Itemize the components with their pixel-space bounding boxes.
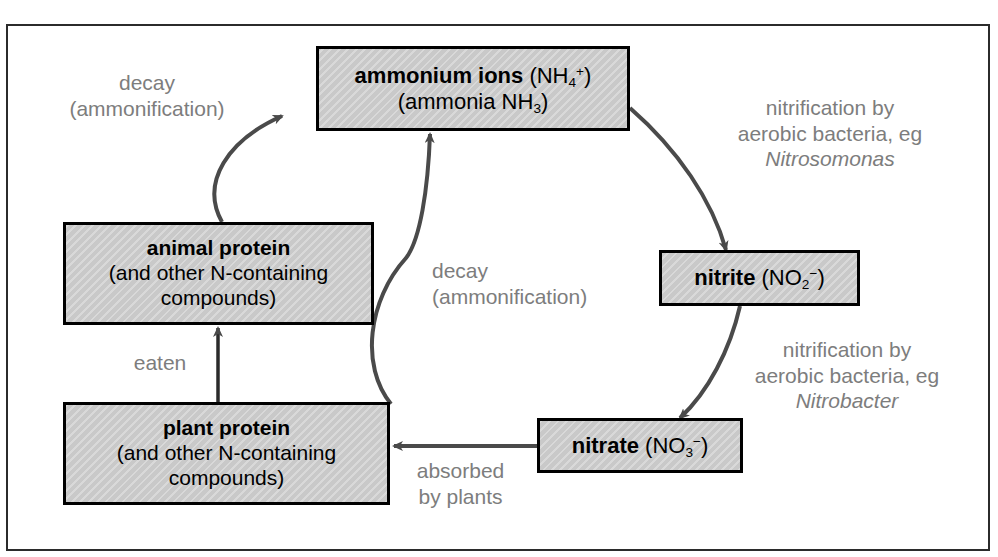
node-plant-protein: plant protein (and other N-containing co… <box>63 402 390 505</box>
node-plant-line3: compounds) <box>169 466 285 491</box>
node-animal-line3: compounds) <box>161 286 277 311</box>
node-animal-protein: animal protein (and other N-containing c… <box>63 222 374 325</box>
label-eaten-line1: eaten <box>113 350 207 376</box>
node-plant-line1: plant protein <box>163 416 290 439</box>
label-absorbed-line1: absorbed <box>393 458 528 484</box>
label-decay-ammonification-left: decay (ammonification) <box>22 70 272 121</box>
node-animal-line2: (and other N-containing <box>109 261 328 286</box>
label-nitrosomonas-species: Nitrosomonas <box>710 146 950 172</box>
node-plant-line2: (and other N-containing <box>117 441 336 466</box>
label-nitrification-nitrobacter: nitrification by aerobic bacteria, eg Ni… <box>742 337 952 414</box>
node-ammonium-line2: (ammonia NH3) <box>398 89 549 115</box>
node-nitrite: nitrite (NO2−) <box>659 250 860 306</box>
label-nitrobacter-species: Nitrobacter <box>742 388 952 414</box>
nitrogen-cycle-diagram: ammonium ions (NH4+) (ammonia NH3) anima… <box>0 0 998 557</box>
label-eaten: eaten <box>113 350 207 376</box>
label-nitrification-nitrosomonas: nitrification by aerobic bacteria, eg Ni… <box>710 95 950 172</box>
node-nitrate: nitrate (NO3−) <box>537 418 743 473</box>
label-decay-left-line1: decay <box>22 70 272 96</box>
label-nitrosomonas-line2: aerobic bacteria, eg <box>710 121 950 147</box>
label-decay-left-line2: (ammonification) <box>22 96 272 122</box>
node-nitrate-text: nitrate (NO3−) <box>572 433 709 459</box>
label-nitrobacter-line1: nitrification by <box>742 337 952 363</box>
label-nitrobacter-line2: aerobic bacteria, eg <box>742 363 952 389</box>
label-absorbed-by-plants: absorbed by plants <box>393 458 528 509</box>
label-nitrosomonas-line1: nitrification by <box>710 95 950 121</box>
label-absorbed-line2: by plants <box>393 484 528 510</box>
node-ammonium-ions: ammonium ions (NH4+) (ammonia NH3) <box>316 46 630 131</box>
node-nitrite-text: nitrite (NO2−) <box>694 265 824 291</box>
label-decay-mid-line2: (ammonification) <box>432 284 642 310</box>
node-ammonium-line1: ammonium ions (NH4+) <box>355 63 592 89</box>
label-decay-mid-line1: decay <box>432 258 642 284</box>
label-decay-ammonification-middle: decay (ammonification) <box>432 258 642 309</box>
node-animal-line1: animal protein <box>147 236 291 259</box>
